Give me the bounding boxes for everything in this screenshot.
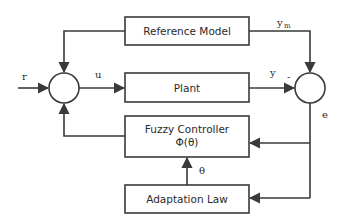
signal-u-label: u [95,69,102,80]
signal-ym-label: y [276,17,283,28]
mrac-block-diagram: Reference Model Plant Fuzzy Controller Φ… [0,0,342,223]
adaptation-law-label: Adaptation Law [146,193,228,205]
signal-y-label: y [269,67,276,78]
summing-junction-left [49,73,79,103]
signal-ym-subscript: m [284,22,291,30]
fuzzy-controller-label: Fuzzy Controller [145,123,230,135]
signal-e-label: e [322,109,328,120]
signal-theta-label: θ [199,165,205,176]
reference-model-label: Reference Model [143,25,231,37]
signal-r-label: r [22,71,27,82]
signal-ym-arrow [249,31,310,72]
summing-junction-right [295,73,325,103]
fuzzy-controller-phi-label: Φ(θ) [176,136,199,148]
reference-to-summer-line [64,31,125,72]
minus-sign: - [287,71,290,82]
plant-label: Plant [174,82,200,94]
controller-to-summer-line [64,104,125,136]
